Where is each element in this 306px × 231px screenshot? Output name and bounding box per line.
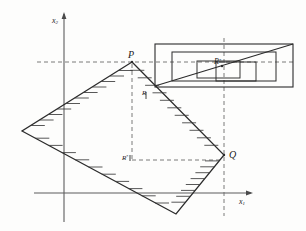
y-axis-arrow-icon xyxy=(62,12,67,19)
point-marker-P xyxy=(131,61,133,63)
hatching-marks xyxy=(31,70,219,203)
rhombus-outline xyxy=(22,62,224,214)
figure-canvas xyxy=(0,0,306,231)
point-label-R: R xyxy=(142,90,146,97)
point-label-P: P xyxy=(128,50,134,60)
x-axis-arrow-icon xyxy=(246,191,253,196)
geometry-figure: x2 x1 P Q R R* R* xyxy=(0,0,306,231)
point-marker-Q xyxy=(223,154,225,156)
point-markers xyxy=(130,61,225,161)
point-label-R-star-inset: R* xyxy=(214,58,221,66)
inset-detail-box xyxy=(155,44,293,87)
point-label-Q: Q xyxy=(229,150,236,160)
construction-lines xyxy=(37,38,296,216)
axis-label-x: x1 xyxy=(239,198,245,207)
point-label-R-star-lower: R* xyxy=(122,155,128,162)
inset-diagonal-line xyxy=(155,44,293,86)
axis-label-y: x2 xyxy=(52,17,58,26)
